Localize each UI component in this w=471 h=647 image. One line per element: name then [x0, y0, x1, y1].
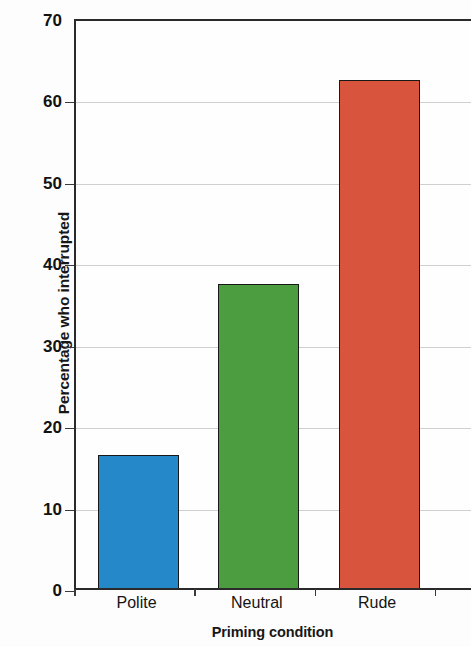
y-axis-tick	[65, 428, 74, 429]
y-axis-tick-label: 0	[53, 581, 62, 601]
y-axis-tick-label: 60	[43, 92, 62, 112]
bar-neutral	[218, 284, 299, 589]
y-axis-tick	[65, 591, 74, 592]
bar-polite	[98, 455, 179, 589]
y-axis-tick	[65, 184, 74, 185]
y-axis-tick	[65, 102, 74, 103]
x-axis-category-label: Neutral	[197, 594, 317, 612]
x-axis-title: Priming condition	[74, 624, 471, 640]
x-axis-line	[74, 588, 471, 590]
y-axis-tick	[65, 510, 74, 511]
plot-area: 010203040506070	[74, 19, 471, 589]
y-axis-tick-label: 10	[43, 500, 62, 520]
x-axis-tick-origin	[74, 589, 76, 596]
y-axis-tick-label: 20	[43, 418, 62, 438]
y-axis-tick-label: 70	[43, 11, 62, 31]
bar-rude	[339, 80, 420, 589]
bar-chart-figure: Percentage who interrupted 0102030405060…	[0, 0, 471, 647]
y-axis-tick-label: 30	[43, 337, 62, 357]
y-axis-tick-label: 40	[43, 255, 62, 275]
y-axis-tick	[65, 265, 74, 266]
x-axis-category-label: Rude	[317, 594, 437, 612]
x-axis-category-label: Polite	[76, 594, 196, 612]
y-axis-tick	[65, 347, 74, 348]
y-axis-tick-label: 50	[43, 174, 62, 194]
